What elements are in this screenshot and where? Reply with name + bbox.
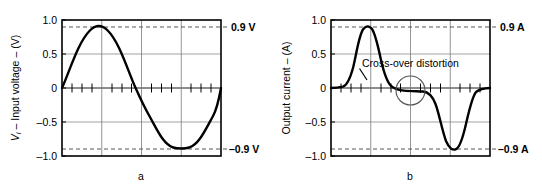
panel-a-ytick-0: 1.0 bbox=[42, 14, 57, 26]
panel-a-letter: a bbox=[138, 170, 144, 182]
panel-a-y-axis-rest: – Input voltage – (V) bbox=[9, 35, 21, 132]
panel-b-upper-marker-label: 0.9 A bbox=[500, 21, 525, 33]
panel-b-y-axis-title: Output current – (A) bbox=[280, 42, 292, 135]
panel-a-ytick-4: –1.0 bbox=[37, 150, 58, 162]
panel-b-ytick-4: –1.0 bbox=[306, 150, 327, 162]
panel-a-y-axis-title: Vi – Input voltage – (V) bbox=[9, 35, 23, 141]
panel-b-lower-marker-label: –0.9 A bbox=[498, 143, 529, 155]
panel-b-ytick-0: 1.0 bbox=[311, 14, 326, 26]
panel-b-annotation-label: Cross-over distortion bbox=[362, 57, 459, 69]
panel-b-text-layer: 1.0 0.5 0 –0.5 –1.0 0.9 A –0.9 A Output … bbox=[271, 0, 542, 187]
panel-a-ytick-2: 0 bbox=[51, 82, 57, 94]
panel-a-ytick-3: –0.5 bbox=[37, 116, 58, 128]
panel-a-lower-marker-label: –0.9 V bbox=[229, 143, 259, 155]
panel-a: 1.0 0.5 0 –0.5 –1.0 0.9 V –0.9 V Vi – In… bbox=[0, 0, 271, 187]
panel-a-ytick-1: 0.5 bbox=[42, 48, 57, 60]
panel-a-upper-marker-label: 0.9 V bbox=[231, 21, 256, 33]
panel-b-ytick-1: 0.5 bbox=[311, 48, 326, 60]
panel-b: 1.0 0.5 0 –0.5 –1.0 0.9 A –0.9 A Output … bbox=[271, 0, 542, 187]
panel-b-letter: b bbox=[407, 170, 413, 182]
panel-b-ytick-2: 0 bbox=[320, 82, 326, 94]
figure-container: 1.0 0.5 0 –0.5 –1.0 0.9 V –0.9 V Vi – In… bbox=[0, 0, 542, 187]
panel-a-text-layer: 1.0 0.5 0 –0.5 –1.0 0.9 V –0.9 V Vi – In… bbox=[0, 0, 271, 187]
panel-b-ytick-3: –0.5 bbox=[306, 116, 327, 128]
